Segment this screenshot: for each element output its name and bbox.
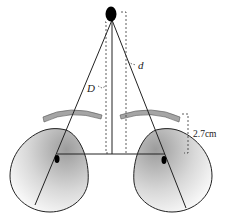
label-d: d bbox=[138, 59, 144, 71]
right-pupil bbox=[162, 156, 167, 164]
label-D: D bbox=[86, 82, 95, 94]
distance-D-leader bbox=[98, 86, 106, 88]
distance-D-marker bbox=[105, 22, 110, 153]
right-eyeball bbox=[134, 129, 212, 212]
left-pupil bbox=[55, 155, 60, 163]
eye-convergence-diagram: D d 2.7cm bbox=[0, 0, 233, 217]
distance-d-marker bbox=[121, 12, 126, 153]
object-point bbox=[106, 7, 117, 22]
label-eye-offset: 2.7cm bbox=[193, 129, 217, 139]
